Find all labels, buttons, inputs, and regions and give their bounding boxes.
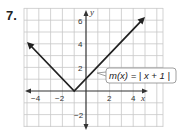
x-tick-label: 4 [131, 94, 136, 103]
equation-label: m(x) = | x + 1 | [109, 70, 170, 81]
y-axis-label: y [89, 7, 94, 17]
equation-callout: m(x) = | x + 1 | [97, 68, 176, 83]
y-tick-label: 4 [78, 40, 83, 49]
x-tick-label: −2 [55, 94, 65, 103]
y-tick-label: −2 [74, 111, 84, 120]
y-tick-label: 6 [78, 17, 83, 26]
x-axis-label: x [140, 93, 145, 103]
y-axis [84, 10, 89, 130]
y-tick-label: 2 [78, 64, 83, 73]
grid [24, 8, 163, 127]
x-tick-label: 2 [107, 94, 112, 103]
coordinate-plane: −4 −2 2 4 x 6 4 2 −2 y m(x) = | x + 1 | [0, 0, 184, 133]
x-tick-label: −4 [31, 94, 41, 103]
